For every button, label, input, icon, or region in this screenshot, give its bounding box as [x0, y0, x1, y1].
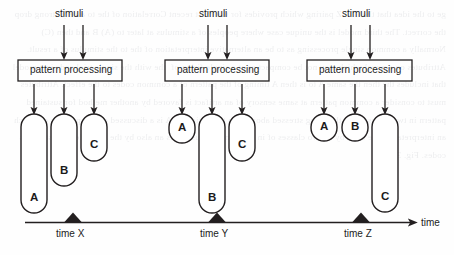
group-y-capsule-b-label: B: [208, 191, 216, 203]
group-y-time-marker: [208, 213, 226, 223]
group-y-capsule-c-label: C: [238, 138, 246, 150]
group-x-time-label: time X: [56, 228, 84, 239]
figure-canvas: ge to the idea that the C→ Z pairing whi…: [0, 0, 454, 255]
group-x-stimuli-arrows: [64, 25, 83, 56]
time-axis-label: time: [421, 217, 440, 228]
pattern-processing-timeline-diagram: [0, 0, 454, 255]
group-x-output-arrows: [34, 84, 94, 111]
group-z-capsule-a-label: A: [320, 120, 328, 132]
group-x-capsule-a-label: A: [30, 191, 38, 203]
group-y-time-label: time Y: [200, 228, 228, 239]
group-z-stimuli-label: stimuli: [342, 8, 370, 19]
group-z-output-arrows: [324, 84, 385, 111]
group-z-capsule-b-label: B: [351, 120, 359, 132]
group-z-time-label: time Z: [344, 228, 372, 239]
group-z-capsule-c-label: C: [381, 190, 389, 202]
group-x-capsule-c-label: C: [90, 138, 98, 150]
group-y-output-arrows: [182, 84, 242, 111]
group-y-capsule-a-label: A: [178, 121, 186, 133]
group-x-capsule-b-label: B: [60, 164, 68, 176]
group-z-time-marker: [352, 213, 370, 223]
group-z-box-label: pattern processing: [319, 64, 401, 75]
group-y-stimuli-label: stimuli: [199, 8, 227, 19]
group-y-stimuli-arrows: [208, 25, 227, 56]
group-y-box-label: pattern processing: [177, 64, 259, 75]
group-z-stimuli-arrows: [351, 25, 370, 56]
group-x-stimuli-label: stimuli: [55, 8, 83, 19]
group-x-time-marker: [64, 213, 82, 223]
group-x-box-label: pattern processing: [30, 64, 112, 75]
